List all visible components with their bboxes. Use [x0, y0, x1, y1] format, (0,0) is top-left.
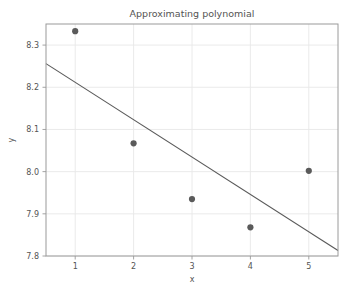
x-axis-label: x	[190, 275, 195, 284]
y-tick-label: 8.2	[26, 83, 39, 92]
data-point-marker	[247, 224, 253, 230]
chart-figure: 12345 7.87.98.08.18.28.3 Approximating p…	[0, 0, 354, 292]
x-tick-label: 5	[306, 262, 311, 271]
y-axis-label: y	[7, 137, 16, 142]
chart-title: Approximating polynomial	[130, 8, 255, 19]
y-tick-label: 8.0	[26, 168, 39, 177]
x-tick-label: 2	[131, 262, 136, 271]
data-point-marker	[72, 28, 78, 34]
x-tick-label: 3	[189, 262, 194, 271]
data-point-marker	[189, 196, 195, 202]
scatter-plot-svg: 12345 7.87.98.08.18.28.3 Approximating p…	[0, 0, 354, 292]
x-tick-label: 4	[248, 262, 253, 271]
y-tick-label: 7.8	[26, 252, 39, 261]
x-tick-label: 1	[73, 262, 78, 271]
y-tick-label: 8.1	[26, 125, 39, 134]
y-tick-label: 7.9	[26, 210, 39, 219]
y-tick-label: 8.3	[26, 41, 39, 50]
data-point-marker	[306, 168, 312, 174]
data-point-marker	[131, 140, 137, 146]
